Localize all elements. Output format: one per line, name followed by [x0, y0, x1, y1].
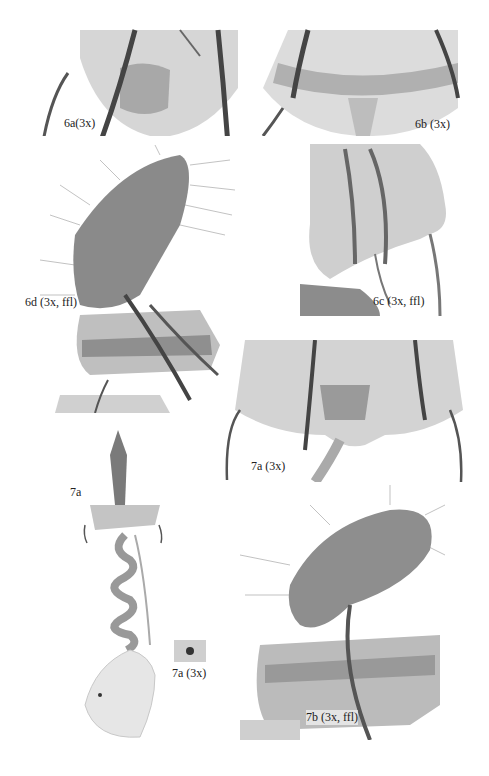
- specimen-image-7a-3x-signum: [170, 638, 215, 668]
- panel-6a: 6a(3x): [40, 28, 240, 136]
- specimen-image-6d: [20, 145, 240, 413]
- panel-label-6c: 6c (3x, ffl): [373, 294, 424, 309]
- specimen-image-7a-whole: [55, 425, 175, 745]
- panel-label-6a: 6a(3x): [64, 116, 95, 131]
- panel-7a-whole: 7a: [55, 425, 175, 745]
- panel-7a-3x-sterigma: 7a (3x): [225, 340, 465, 482]
- panel-label-6d: 6d (3x, ffl): [25, 295, 77, 310]
- panel-label-7a-3x-sterigma: 7a (3x): [251, 459, 285, 474]
- panel-label-7a-whole: 7a: [70, 485, 81, 500]
- panel-label-7b: 7b (3x, ffl): [306, 710, 358, 725]
- panel-label-7a-3x-signum: 7a (3x): [172, 666, 206, 681]
- panel-6c: 6c (3x, ffl): [300, 144, 460, 316]
- panel-7a-3x-signum: 7a (3x): [170, 638, 215, 690]
- panel-6d: 6d (3x, ffl): [20, 145, 240, 413]
- specimen-image-6c: [300, 144, 460, 316]
- panel-label-6b: 6b (3x): [415, 117, 450, 132]
- panel-7b: 7b (3x, ffl): [240, 485, 445, 740]
- panel-6b: 6b (3x): [258, 28, 460, 136]
- specimen-image-7b: [240, 485, 445, 740]
